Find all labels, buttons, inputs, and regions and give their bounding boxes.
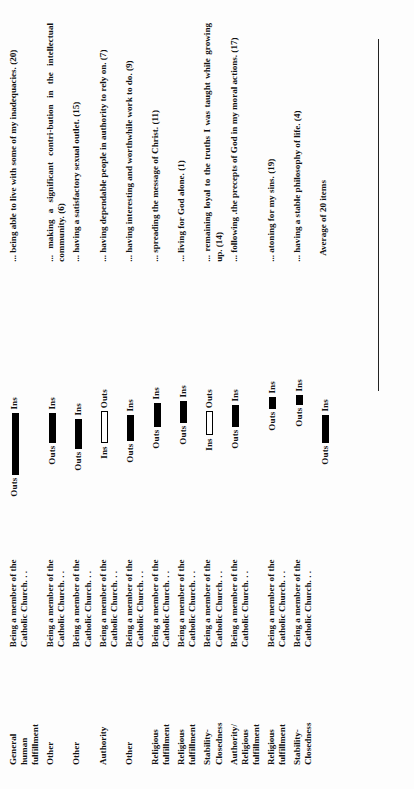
row-item-cell: ... having dependable people in authorit… — [98, 23, 124, 262]
stem-line: Catholic Church. . . — [214, 501, 225, 647]
table-row: Stability-ClosednessBeing a member of th… — [292, 23, 318, 765]
row-item-cell: ... making a significant contri-bution i… — [45, 23, 71, 262]
stem-line: Catholic Church. . . — [83, 501, 94, 647]
bar-segment — [180, 401, 187, 423]
category-line: fulfillment — [277, 647, 288, 765]
bar-row: InsOuts — [202, 262, 216, 501]
category-line: Religious — [176, 647, 187, 765]
stem-line: Catholic Church. . . — [187, 501, 198, 647]
bar-segment — [154, 403, 161, 427]
row-stem: Being a member of theCatholic Church. . … — [176, 501, 202, 647]
bar-segment — [101, 411, 108, 443]
bar-row: OutsIns — [71, 262, 85, 501]
stem-line: Catholic Church. . . — [303, 501, 314, 647]
bar-cell: OutsIns — [292, 262, 318, 501]
bar-label-right: Ins — [73, 403, 84, 415]
bar-segment — [206, 411, 213, 435]
bar-label-right: Ins — [267, 381, 278, 393]
category-line: Stability- — [202, 647, 213, 765]
average-stem-spacer — [318, 501, 336, 647]
row-stem: Being a member of theCatholic Church. . … — [45, 501, 71, 647]
average-label-right: Ins — [320, 399, 331, 411]
bar-label-left: Outs — [47, 446, 58, 465]
category-line: Religious — [150, 647, 161, 765]
row-item-cell: ... having interesting and worthwhile wo… — [124, 23, 150, 262]
category-line: Religious — [240, 647, 251, 765]
average-label-cell: Average of 20 items — [318, 23, 336, 262]
table-row: AuthorityBeing a member of theCatholic C… — [98, 23, 124, 765]
bar-label-right: Ins — [151, 387, 162, 399]
bar-label-right: Ins — [178, 385, 189, 397]
row-category: Religiousfulfillment — [176, 647, 202, 765]
bar-row: OutsIns — [8, 262, 22, 501]
bar-label-left: Outs — [125, 444, 136, 463]
bar-row: OutsIns — [318, 262, 332, 501]
stem-line: Catholic Church. . . — [135, 501, 146, 647]
row-stem: Being a member of theCatholic Church. . … — [124, 501, 150, 647]
stem-line: Being a member of the — [124, 501, 135, 647]
bar-row: OutsIns — [229, 262, 243, 501]
stem-line: Being a member of the — [8, 501, 19, 647]
stem-line: Being a member of the — [176, 501, 187, 647]
row-stem: Being a member of theCatholic Church. . … — [202, 501, 228, 647]
bar-label-right: Ins — [47, 397, 58, 409]
bar-label-right: Outs — [99, 389, 110, 408]
row-category: Authority — [98, 647, 124, 765]
category-line: Other — [71, 647, 82, 765]
row-category: Stability-Closedness — [202, 647, 228, 765]
bar-label-left: Ins — [99, 446, 110, 458]
stem-line: Being a member of the — [202, 501, 213, 647]
bar-label-left: Outs — [73, 452, 84, 471]
bar-row: OutsIns — [292, 262, 306, 501]
bar-label-left: Outs — [9, 478, 20, 497]
bar-label-left: Outs — [230, 430, 241, 449]
row-item-text: ... making a significant contri-bution i… — [45, 23, 67, 262]
stem-line: Catholic Church. . . — [56, 501, 67, 647]
bar-label-right: Ins — [125, 399, 136, 411]
stem-line: Catholic Church. . . — [277, 501, 288, 647]
row-item-text: ... having a stable philosophy of life. … — [292, 23, 303, 262]
table-row: OtherBeing a member of theCatholic Churc… — [124, 23, 150, 765]
bar-segment — [12, 413, 19, 475]
category-line: Religious — [266, 647, 277, 765]
category-line: human — [19, 647, 30, 765]
category-line: fulfillment — [30, 647, 41, 765]
bar-label-left: Outs — [178, 426, 189, 445]
row-item-cell: ... following .the precepts of God in my… — [229, 23, 266, 262]
row-category: Authority/Religiousfulfillment — [229, 647, 266, 765]
row-stem: Being a member of theCatholic Church. . … — [8, 501, 45, 647]
category-line: Stability- — [292, 647, 303, 765]
row-item-cell: ... living for God alone. (1) — [176, 23, 202, 262]
bar-cell: OutsIns — [8, 262, 45, 501]
category-line: fulfillment — [161, 647, 172, 765]
category-line: Authority — [98, 647, 109, 765]
bar-row: OutsIns — [150, 262, 164, 501]
rotated-page-wrapper: GeneralhumanfulfillmentBeing a member of… — [0, 0, 414, 789]
average-row: OutsInsAverage of 20 items — [318, 23, 336, 765]
bar-label-left: Ins — [204, 438, 215, 450]
category-line: Closedness — [214, 647, 225, 765]
row-stem: Being a member of theCatholic Church. . … — [292, 501, 318, 647]
stem-line: Being a member of the — [45, 501, 56, 647]
bar-cell: OutsIns — [71, 262, 97, 501]
bar-label-left: Outs — [267, 412, 278, 431]
row-item-cell: ... having a satisfactory sexual outlet.… — [71, 23, 97, 262]
bar-label-right: Outs — [204, 389, 215, 408]
stem-line: Being a member of the — [98, 501, 109, 647]
row-item-text: ... having interesting and worthwhile wo… — [124, 23, 135, 262]
row-item-text: ... spreading the message of Christ. (11… — [150, 23, 161, 262]
stem-line: Being a member of the — [150, 501, 161, 647]
average-bar-cell: OutsIns — [318, 262, 336, 501]
average-category-spacer — [318, 647, 336, 765]
table-row: OtherBeing a member of theCatholic Churc… — [45, 23, 71, 765]
row-item-cell: ... atoning for my sins. (19) — [266, 23, 292, 262]
row-stem: Being a member of theCatholic Church. . … — [98, 501, 124, 647]
row-category: Generalhumanfulfillment — [8, 647, 45, 765]
figure-table-body: GeneralhumanfulfillmentBeing a member of… — [8, 23, 336, 765]
table-row: Authority/ReligiousfulfillmentBeing a me… — [229, 23, 266, 765]
row-stem: Being a member of theCatholic Church. . … — [266, 501, 292, 647]
bar-row: OutsIns — [176, 262, 190, 501]
table-row: Stability-ClosednessBeing a member of th… — [202, 23, 228, 765]
stem-line: Being a member of the — [266, 501, 277, 647]
row-item-text: ... following .the precepts of God in my… — [229, 23, 240, 262]
